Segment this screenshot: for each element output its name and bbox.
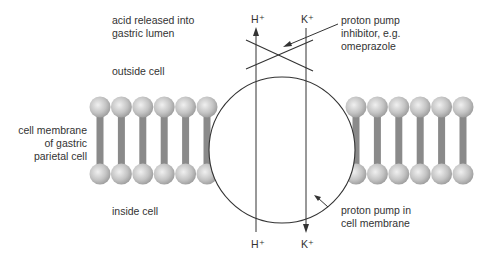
lipid-head-inner (132, 164, 153, 185)
lipid-head-outer (132, 97, 153, 118)
inhibitor-label-line-1: proton pump (341, 14, 400, 26)
outside-cell-label: outside cell (112, 65, 165, 77)
k-ion-bottom-label: K⁺ (301, 238, 314, 250)
membrane-label-line-1: cell membrane (18, 124, 87, 136)
lipid-head-outer (410, 97, 431, 118)
lipid-head-inner (453, 164, 474, 185)
inhibitor-label-line-3: omeprazole (341, 40, 396, 52)
k-ion-top-label: K⁺ (301, 13, 314, 25)
lipid-head-inner (431, 164, 452, 185)
pump-label-line-2: cell membrane (341, 217, 410, 229)
lipid-right-6 (453, 97, 474, 185)
lipid-head-outer (111, 97, 132, 118)
membrane-label-line-3: parietal cell (34, 150, 87, 162)
lipid-head-outer (453, 97, 474, 118)
inside-cell-label: inside cell (112, 205, 158, 217)
lipid-head-outer (367, 97, 388, 118)
lipid-left-4 (154, 97, 175, 185)
proton-pump-circle (209, 77, 355, 223)
lipid-left-5 (175, 97, 196, 185)
lipid-right-2 (367, 97, 388, 185)
lipid-left-1 (90, 97, 111, 185)
membrane-label-line-2: of gastric (44, 137, 87, 149)
proton-pump-diagram: H⁺ K⁺ H⁺ K⁺ acid released into gastric l… (0, 0, 494, 259)
lipid-head-outer (154, 97, 175, 118)
lipid-head-inner (388, 164, 409, 185)
lipid-head-inner (90, 164, 111, 185)
lipid-right-5 (431, 97, 452, 185)
lipid-head-inner (175, 164, 196, 185)
inhibitor-pointer-line (288, 24, 338, 45)
inhibitor-label-line-2: inhibitor, e.g. (341, 27, 401, 39)
lipid-right-4 (410, 97, 431, 185)
lipid-left-2 (111, 97, 132, 185)
inhibitor-pointer-arrow-icon (283, 41, 292, 47)
lipid-head-inner (367, 164, 388, 185)
lipid-bilayer-left (90, 97, 218, 185)
lipid-head-outer (175, 97, 196, 118)
h-ion-top-label: H⁺ (251, 13, 265, 25)
lipid-bilayer-right (346, 97, 474, 185)
lipid-head-outer (431, 97, 452, 118)
lipid-head-outer (197, 97, 218, 118)
pump-label-line-1: proton pump in (341, 204, 411, 216)
h-arrow-head-icon (253, 27, 259, 36)
lipid-left-3 (132, 97, 153, 185)
lipid-head-inner (111, 164, 132, 185)
h-ion-bottom-label: H⁺ (251, 238, 265, 250)
lipid-right-3 (388, 97, 409, 185)
k-arrow-head-icon (303, 224, 309, 233)
lipid-head-inner (410, 164, 431, 185)
lipid-head-inner (154, 164, 175, 185)
lipid-head-outer (90, 97, 111, 118)
lipid-head-outer (388, 97, 409, 118)
acid-label-line-1: acid released into (112, 14, 194, 26)
acid-label-line-2: gastric lumen (112, 27, 175, 39)
lipid-head-outer (346, 97, 367, 118)
